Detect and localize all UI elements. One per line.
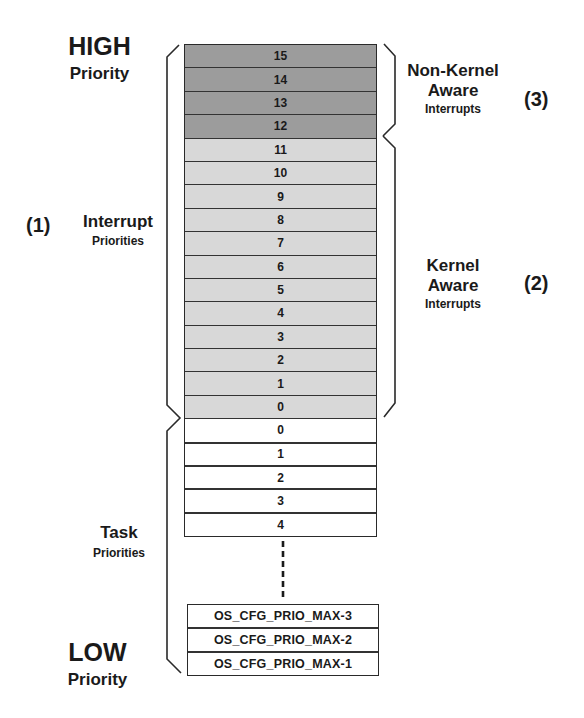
right-brace-kernel-icon: [383, 136, 395, 417]
brace-overlay: [0, 0, 584, 718]
right-brace-nonkernel-icon: [383, 44, 395, 136]
left-brace-interrupts-icon: [167, 45, 181, 673]
